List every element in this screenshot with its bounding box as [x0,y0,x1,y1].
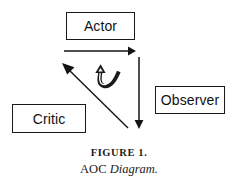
horizontal-right-arrow [64,47,136,56]
node-label-critic: Critic [33,112,65,126]
node-box-observer[interactable]: Observer [155,86,225,114]
figure-caption-title: AOC Diagram. [0,161,238,178]
curved-loop-arrow [95,64,120,88]
figure-caption-label: FIGURE 1. [0,146,238,160]
vertical-down-arrow [135,57,144,129]
figure-caption-title-italic: Diagram. [110,162,158,176]
node-box-critic[interactable]: Critic [12,104,86,133]
figure-caption-title-plain: AOC [80,162,110,176]
node-label-observer: Observer [161,93,219,107]
node-label-actor: Actor [84,19,117,33]
figure-canvas: Actor Observer Critic FIGURE 1. AOC Diag… [0,0,238,187]
node-box-actor[interactable]: Actor [66,12,135,40]
figure-caption: FIGURE 1. AOC Diagram. [0,146,238,178]
